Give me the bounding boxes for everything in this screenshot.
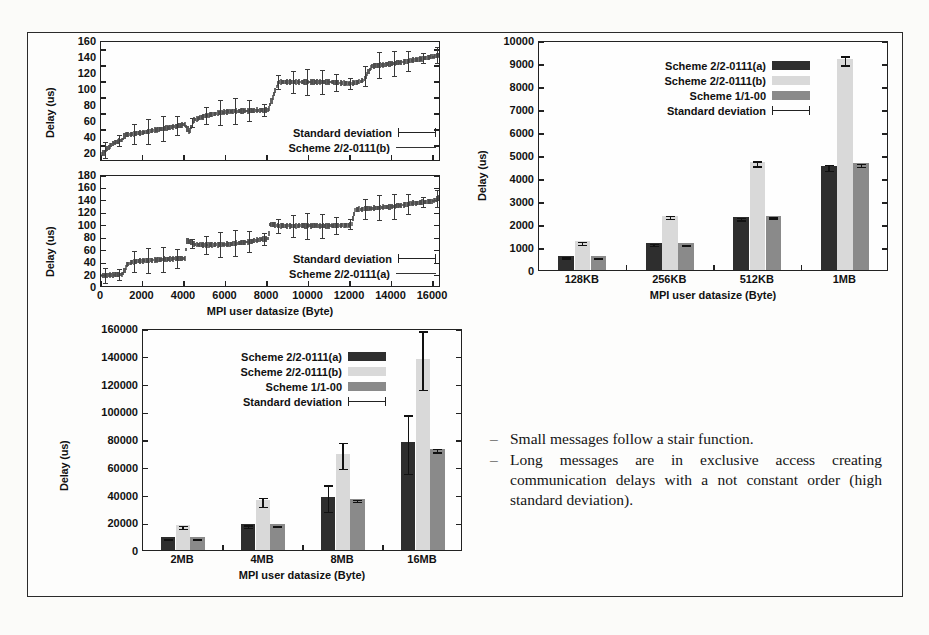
stddev-whisker-cap xyxy=(218,232,223,233)
bar-1MB-series1 xyxy=(821,166,837,270)
stddev-whisker-cap xyxy=(190,248,195,249)
y-tick-mark xyxy=(882,64,887,65)
stddev-whisker-cap xyxy=(406,71,411,72)
y-tick-mark xyxy=(101,175,106,176)
error-bar-cap xyxy=(841,65,850,66)
y-tick-mark xyxy=(101,200,106,201)
stddev-whisker-cap xyxy=(117,135,122,136)
stddev-whisker-cap xyxy=(161,116,166,117)
x-tick-mark xyxy=(349,155,350,160)
y-tick-label: 20 xyxy=(32,147,96,159)
y-tick-label: 6000 xyxy=(466,127,534,139)
y-tick-mark xyxy=(456,468,461,469)
legend-row-stddev: Standard deviation xyxy=(582,103,810,118)
y-tick-mark xyxy=(882,202,887,203)
error-bar xyxy=(845,56,846,65)
stddev-whisker-cap xyxy=(320,94,325,95)
legend-label-stddev: Standard deviation xyxy=(243,396,342,408)
stddev-whisker-cap xyxy=(348,78,353,79)
stddev-whisker-cap xyxy=(406,51,411,52)
legend-row-scheme-b: Scheme 2/2-0111(b) xyxy=(582,73,810,88)
stddev-whisker-cap xyxy=(305,95,310,96)
y-tick-mark xyxy=(434,81,439,82)
error-bar-cap xyxy=(753,161,762,162)
x-tick-label: 16000 xyxy=(417,289,448,301)
stddev-whisker-cap xyxy=(276,219,281,220)
y-tick-label: 2000 xyxy=(466,219,534,231)
scheme-a-swatch-icon xyxy=(772,61,810,70)
error-bar-cap xyxy=(857,167,866,168)
stddev-whisker-cap xyxy=(132,124,137,125)
x-tick-label: 6000 xyxy=(212,289,236,301)
x-tick-mark xyxy=(713,265,714,270)
stddev-whisker-cap xyxy=(161,272,166,273)
y-tick-mark xyxy=(539,225,544,226)
chart-top-left-upper-legend: Standard deviation Scheme 2/2-0111(b) xyxy=(240,125,436,155)
error-bar-cap xyxy=(324,485,333,486)
error-bar-cap xyxy=(682,246,691,247)
chart-top-left-lower-xticks: 0200040006000800010000120001400016000 xyxy=(100,289,440,305)
y-tick-mark xyxy=(434,113,439,114)
data-band-segment xyxy=(268,231,270,236)
y-tick-label: 7000 xyxy=(466,104,534,116)
scheme-c-swatch-icon xyxy=(348,382,386,391)
chart-bottom-left-xlabel: MPI user datasize (Byte) xyxy=(142,569,462,581)
stddev-whisker-cap xyxy=(204,236,209,237)
x-tick-mark xyxy=(183,155,184,160)
x-tick-mark xyxy=(225,155,226,160)
x-tick-mark xyxy=(142,281,143,286)
stddev-whisker-cap xyxy=(406,194,411,195)
x-tick-mark xyxy=(225,281,226,286)
stddev-whisker-cap xyxy=(262,116,267,117)
y-tick-mark xyxy=(456,329,461,330)
error-bar-cap xyxy=(419,390,428,391)
error-bar-cap xyxy=(244,528,253,529)
y-tick-mark xyxy=(101,250,106,251)
data-band-segment xyxy=(438,195,440,199)
error-bar xyxy=(422,331,423,389)
stddev-whisker-cap xyxy=(233,256,238,257)
x-tick-mark xyxy=(308,155,309,160)
stddev-whisker-cap xyxy=(132,144,137,145)
legend-label-scheme-c: Scheme 1/1-00 xyxy=(266,381,342,393)
y-tick-mark xyxy=(456,357,461,358)
stddev-whisker-cap xyxy=(117,280,122,281)
error-bar-cap xyxy=(404,474,413,475)
y-tick-mark xyxy=(539,248,544,249)
legend-row-scheme-a: Scheme 2/2-0111(a) xyxy=(582,58,810,73)
stddev-whisker-cap xyxy=(247,121,252,122)
x-tick-label: 8MB xyxy=(330,553,353,565)
legend-label-scheme-b: Scheme 2/2-0111(b) xyxy=(288,142,390,154)
x-tick-label: 512KB xyxy=(740,273,774,285)
y-tick-mark xyxy=(101,81,106,82)
chart-top-left-upper-yticks: 20406080100120140160 xyxy=(28,33,96,178)
stddev-whisker-cap xyxy=(117,146,122,147)
stddev-whisker-cap xyxy=(218,100,223,101)
legend-label-stddev: Standard deviation xyxy=(667,105,766,117)
y-tick-mark xyxy=(143,329,148,330)
legend-row-stddev: Standard deviation xyxy=(240,125,436,140)
stddev-whisker-cap xyxy=(175,249,180,250)
stddev-whisker-cap xyxy=(103,158,108,159)
y-tick-mark xyxy=(434,97,439,98)
y-tick-label: 40 xyxy=(32,256,96,268)
legend-label-scheme-a: Scheme 2/2-0111(a) xyxy=(665,60,766,72)
x-tick-label: 4MB xyxy=(250,553,273,565)
stddev-whisker-cap xyxy=(363,199,368,200)
y-tick-mark xyxy=(101,129,106,130)
stddev-whisker-cap xyxy=(363,86,368,87)
stddev-whisker-cap xyxy=(305,213,310,214)
x-tick-label: 12000 xyxy=(334,289,365,301)
y-tick-mark xyxy=(882,110,887,111)
y-tick-label: 180 xyxy=(32,169,96,181)
y-tick-label: 80000 xyxy=(50,434,138,446)
y-tick-mark xyxy=(882,133,887,134)
stddev-whisker-cap xyxy=(103,268,108,269)
y-tick-mark xyxy=(882,248,887,249)
error-bar-cap xyxy=(244,525,253,526)
y-tick-mark xyxy=(456,496,461,497)
scheme-a-swatch-icon xyxy=(348,352,386,361)
chart-top-left-lower-yticks: 020406080100120140160180 xyxy=(28,169,96,329)
x-tick-mark xyxy=(266,281,267,286)
stddev-whisker-cap xyxy=(305,69,310,70)
